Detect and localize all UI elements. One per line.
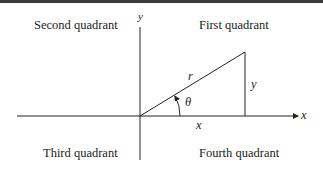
first-quadrant-label: First quadrant bbox=[199, 18, 269, 33]
x-axis-label: x bbox=[301, 108, 307, 123]
fourth-quadrant-label: Fourth quadrant bbox=[199, 146, 279, 161]
second-quadrant-label: Second quadrant bbox=[34, 18, 118, 33]
opposite-label: y bbox=[251, 77, 257, 92]
angle-arc bbox=[175, 96, 180, 116]
hypotenuse-label: r bbox=[188, 69, 193, 84]
angle-label: θ bbox=[185, 95, 191, 110]
hypotenuse-r bbox=[140, 52, 245, 116]
y-axis-label: y bbox=[138, 10, 143, 22]
adjacent-label: x bbox=[196, 118, 202, 133]
third-quadrant-label: Third quadrant bbox=[43, 146, 118, 161]
